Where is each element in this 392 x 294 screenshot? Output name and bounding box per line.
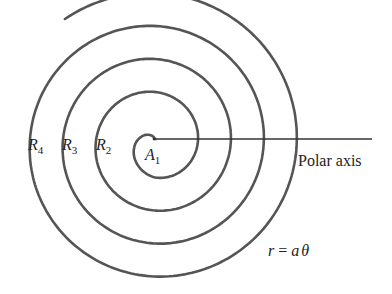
pole-point	[153, 138, 156, 141]
label-r2: R2	[95, 136, 111, 156]
polar-axis-label: Polar axis	[298, 152, 362, 169]
spiral-equation: r = aθ	[268, 242, 309, 259]
spiral-diagram: Polar axis R4 R3 R2 A1 r = aθ	[0, 0, 392, 294]
label-a1: A1	[144, 146, 160, 166]
